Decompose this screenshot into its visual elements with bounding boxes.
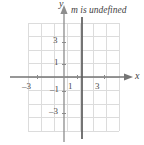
graph-canvas xyxy=(0,0,144,145)
y-tick-label-3: 3 xyxy=(53,36,58,45)
x-tick-label-1: 1 xyxy=(68,82,73,91)
x-axis-label: x xyxy=(135,71,139,81)
y-axis-label: y xyxy=(59,0,63,9)
x-tick-label-neg3: –3 xyxy=(22,82,31,91)
y-tick-label-neg3: –3 xyxy=(49,107,58,116)
x-tick-label-3: 3 xyxy=(95,82,100,91)
y-tick-label-neg1: –1 xyxy=(50,85,59,94)
coordinate-plane-figure: m is undefined y x –3 1 3 3 1 –1 –3 xyxy=(0,0,144,145)
slope-undefined-annotation: m is undefined xyxy=(71,6,126,16)
x-axis-arrowhead xyxy=(124,73,133,80)
y-tick-label-1: 1 xyxy=(54,58,59,67)
